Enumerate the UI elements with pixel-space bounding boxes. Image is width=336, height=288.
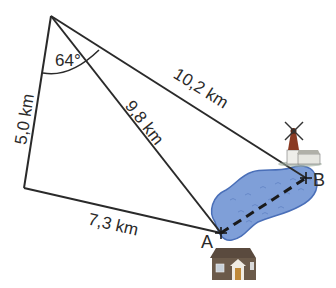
diagram-canvas: 5,0 km 7,3 km 9,8 km 10,2 km 64° A B [0, 0, 336, 288]
distance-diagram: 5,0 km 7,3 km 9,8 km 10,2 km 64° A B [0, 0, 336, 288]
label-point-b: B [313, 170, 325, 190]
label-angle: 64° [55, 51, 81, 70]
label-bottom-side: 7,3 km [86, 210, 140, 240]
side-top [51, 16, 306, 178]
house-icon [210, 248, 256, 280]
windmill-icon [278, 122, 322, 167]
label-left-side: 5,0 km [11, 92, 38, 145]
label-diagonal: 9,8 km [121, 97, 167, 149]
label-top-side: 10,2 km [170, 64, 231, 112]
label-point-a: A [201, 232, 213, 252]
